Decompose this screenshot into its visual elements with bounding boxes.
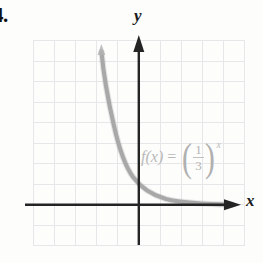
y-axis-arrowhead-icon [133,35,144,52]
curve-arrowhead-icon [98,44,106,55]
exponent-label: x [217,139,221,150]
fraction-denominator: 3 [195,159,202,172]
x-axis-arrowhead-icon [224,199,241,210]
base-fraction: 1 3 [193,143,204,173]
y-axis [133,35,144,245]
figure-container: 4. [0,0,263,263]
function-curve [102,52,233,205]
x-axis-label: x [246,191,255,211]
function-equation-annotation: f(x) = ( 1 3 ) x [141,141,221,174]
graph-svg [0,0,263,263]
equals-sign: = [167,148,176,166]
fraction-numerator: 1 [195,143,202,156]
y-axis-label: y [134,6,142,26]
coordinate-plane [0,0,263,263]
right-parenthesis: ) [205,141,215,174]
function-name-label: f(x) [141,148,163,166]
left-parenthesis: ( [182,141,192,174]
